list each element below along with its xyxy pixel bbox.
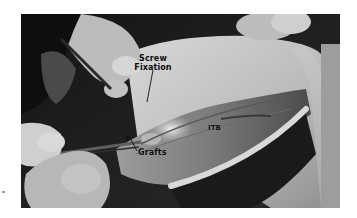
surgical-photo: Screw Fixation ITB Grafts (21, 14, 340, 208)
grafts-label: Grafts (138, 148, 167, 157)
margin-speck (2, 191, 5, 193)
screw-fixation-line1: Screw (131, 54, 175, 63)
screw-fixation-label: Screw Fixation (131, 54, 175, 72)
photo-content (21, 14, 340, 208)
screw-fixation-line2: Fixation (131, 63, 175, 72)
itb-label: ITB (208, 124, 221, 133)
